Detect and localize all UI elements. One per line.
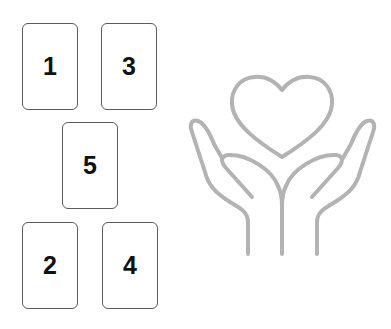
card-number: 1 (43, 54, 57, 79)
card-position-2[interactable]: 2 (22, 222, 78, 309)
card-position-3[interactable]: 3 (101, 23, 157, 110)
card-position-5[interactable]: 5 (62, 122, 118, 209)
left-hand-icon (191, 121, 248, 254)
card-number: 4 (123, 253, 137, 278)
card-position-4[interactable]: 4 (102, 222, 158, 309)
right-hand-icon (317, 121, 374, 254)
card-number: 2 (43, 253, 57, 278)
card-position-1[interactable]: 1 (22, 23, 78, 110)
hands-holding-heart-icon (180, 60, 391, 260)
heart-icon (232, 77, 332, 157)
card-number: 3 (122, 54, 136, 79)
card-number: 5 (83, 153, 97, 178)
